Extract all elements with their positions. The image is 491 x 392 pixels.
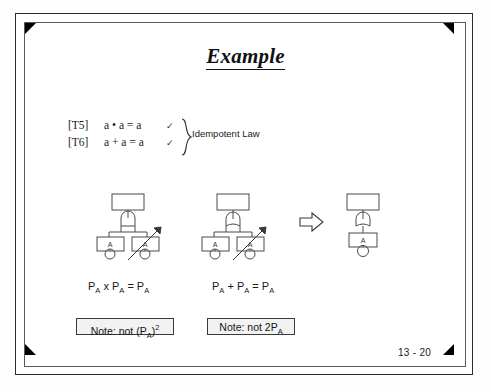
- circuit-diagram-reduced: A: [340, 190, 396, 264]
- check-icon: ✓: [166, 121, 180, 131]
- theorem-row: [T5]a • a = a✓: [68, 119, 180, 136]
- input-label-right: A: [143, 241, 148, 248]
- implies-arrow-icon: [299, 211, 325, 237]
- output-block: [347, 194, 379, 210]
- input-label-left: A: [213, 241, 218, 248]
- theorem-tag: [T5]: [68, 119, 104, 131]
- corner-marker-top-left: [25, 23, 36, 34]
- theorem-tag: [T6]: [68, 136, 104, 148]
- note-box-sum: Note: not 2PA: [207, 318, 295, 335]
- output-block: [217, 194, 249, 210]
- brace-label: Idempotent Law: [192, 128, 260, 139]
- corner-marker-bottom-right: [443, 344, 454, 355]
- theorem-list: [T5]a • a = a✓ [T6]a + a = a✓: [68, 119, 180, 153]
- equation-sum: PA + PA = PA: [212, 280, 274, 295]
- slide-root: Example [T5]a • a = a✓ [T6]a + a = a✓ Id…: [0, 0, 491, 392]
- equation-product: PA x PA = PA: [88, 280, 149, 295]
- input-label-right: A: [248, 241, 253, 248]
- check-icon: ✓: [166, 138, 180, 148]
- theorem-equation: a • a = a: [104, 119, 166, 131]
- page-title: Example: [0, 44, 491, 69]
- corner-marker-bottom-left: [25, 344, 36, 355]
- page-title-text: Example: [206, 44, 284, 70]
- theorem-row: [T6]a + a = a✓: [68, 136, 180, 153]
- input-label: A: [361, 237, 366, 244]
- corner-marker-top-right: [443, 23, 454, 34]
- note-box-product: Note: not (PA)2: [76, 318, 174, 335]
- page-number: 13 - 20: [398, 347, 431, 358]
- output-block: [112, 194, 144, 210]
- input-label-left: A: [108, 241, 113, 248]
- circuit-diagram-and-two-inputs: A A: [95, 190, 167, 264]
- theorem-equation: a + a = a: [104, 136, 166, 148]
- circuit-diagram-or-two-inputs: A A: [200, 190, 272, 264]
